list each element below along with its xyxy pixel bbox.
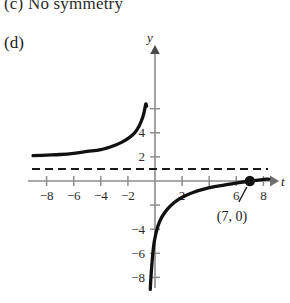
t-axis-label: t bbox=[281, 174, 285, 189]
t-axis-tick-labels: −8−6−4−2268 bbox=[40, 188, 267, 203]
curve-right-branch bbox=[150, 179, 269, 289]
t-axis-tick-label: −6 bbox=[67, 188, 81, 203]
y-axis-tick-labels: 42−4−6−8 bbox=[131, 125, 145, 285]
figure-root: (c) No symmetry (d) −8−6−4−2268 42−4−6−8… bbox=[0, 0, 290, 303]
y-axis-tick-label: −4 bbox=[131, 222, 145, 237]
graph-plot: −8−6−4−2268 42−4−6−8 y t (7, 0) bbox=[0, 0, 290, 303]
t-intercept-point-marker bbox=[245, 176, 255, 186]
y-axis-tick-label: 2 bbox=[139, 149, 146, 164]
y-axis-label: y bbox=[145, 30, 153, 45]
curve-left-branch bbox=[33, 104, 147, 156]
t-axis-tick-label: −4 bbox=[94, 188, 108, 203]
t-axis-tick-label: 8 bbox=[260, 188, 267, 203]
y-axis-tick-label: −8 bbox=[131, 270, 145, 285]
point-leader-line bbox=[239, 187, 247, 202]
y-axis-tick-label: −6 bbox=[131, 246, 145, 261]
t-axis-arrowhead bbox=[270, 176, 279, 187]
t-axis-tick-label: −2 bbox=[121, 188, 135, 203]
y-axis-arrowhead bbox=[150, 45, 160, 54]
t-intercept-point-label: (7, 0) bbox=[217, 209, 248, 225]
t-axis-tick-label: −8 bbox=[40, 188, 54, 203]
